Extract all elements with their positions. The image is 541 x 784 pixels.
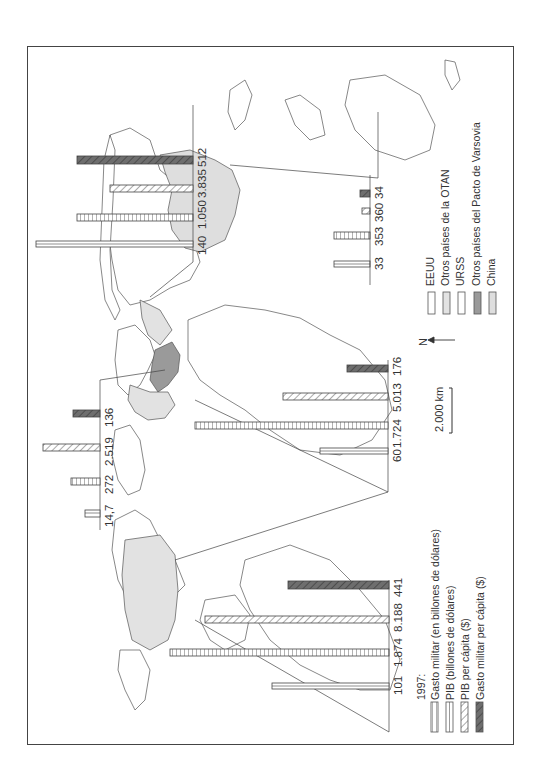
varsovia-land: [150, 342, 180, 392]
label-urss-pib-per-capita: 3.835: [197, 169, 209, 198]
africa-land: [188, 305, 392, 455]
scale-label: 2.000 km: [434, 387, 445, 432]
label-eeuu-pib: 1.874: [393, 638, 405, 667]
label-urss-pib: 1.050: [197, 200, 209, 229]
bar-china-pib-per-capita: [283, 393, 388, 400]
bar-varsovia-pib: [334, 232, 370, 239]
label-varsovia-pib: 353: [374, 227, 386, 246]
label-china-gasto-militar: 60: [392, 449, 404, 462]
bar-otan-gasto-militar: [85, 510, 100, 517]
bar-urss-gasto-per-capita: [77, 156, 193, 164]
indonesia-land: [285, 95, 325, 140]
bar-varsovia-pib-per-capita: [362, 208, 370, 214]
bar-eeuu-gasto-per-capita: [288, 581, 389, 589]
greenland-land: [112, 425, 145, 495]
label-china-pib: 1.724: [392, 419, 404, 448]
bars-varsovia: [334, 175, 370, 285]
bar-china-gasto-per-capita: [347, 365, 388, 372]
japan-land: [228, 80, 252, 130]
legend-region-varsovia: Otros países del Pacto de Varsovia: [471, 122, 482, 286]
bars-otan: [43, 410, 100, 517]
north-arrow: [428, 337, 455, 343]
label-eeuu-gasto-militar: 101: [393, 676, 405, 695]
legend-region-eeuu: EEUU: [425, 257, 436, 286]
bar-china-pib: [195, 422, 388, 429]
legend-region-china: China: [486, 259, 497, 286]
bar-otan-pib: [71, 478, 100, 485]
label-urss-gasto-per-capita: 512: [197, 148, 209, 167]
bar-urss-pib-per-capita: [110, 185, 193, 192]
legend-bar-swatches: [431, 702, 483, 732]
bar-varsovia-gasto-per-capita: [360, 190, 370, 197]
alaska-land: [118, 650, 150, 710]
bar-eeuu-pib: [170, 649, 389, 656]
legend-region-otan: Otros países de la OTAN: [440, 169, 451, 286]
legend-bar-pib: PIB (billones de dólares): [445, 586, 456, 700]
label-varsovia-gasto-militar: 33: [374, 257, 386, 270]
label-china-pib-per-capita: 5.013: [392, 383, 404, 412]
label-otan-gasto-per-capita: 136: [104, 408, 116, 427]
legend-bar-gasto-militar: Gasto militar (en billones de dólares): [430, 529, 441, 700]
scale-bar: [449, 388, 452, 433]
legend-bar-pib-per-capita: PIB per cápita ($): [460, 618, 471, 700]
legend-region-swatches: [428, 292, 496, 314]
otan-europe-land: [128, 385, 175, 420]
label-varsovia-gasto-per-capita: 34: [374, 186, 386, 199]
north-label: N: [418, 338, 429, 346]
label-china-gasto-per-capita: 176: [392, 357, 404, 376]
legend-bar-gasto-per-capita: Gasto militar per cápita ($): [475, 576, 486, 700]
label-otan-pib: 272: [104, 475, 116, 494]
label-otan-pib-per-capita: 2.519: [104, 437, 116, 466]
australia-land: [345, 75, 435, 160]
bar-otan-gasto-per-capita: [73, 410, 100, 417]
bar-eeuu-pib-per-capita: [205, 616, 389, 623]
legend-region-urss: URSS: [455, 257, 466, 286]
eeuu-land: [122, 535, 178, 650]
nz-land: [445, 60, 460, 90]
label-urss-gasto-militar: 140: [197, 236, 209, 255]
label-otan-gasto-militar: 14,7: [104, 505, 116, 527]
label-varsovia-pib-per-capita: 360: [374, 203, 386, 222]
bar-otan-pib-per-capita: [43, 444, 100, 451]
label-eeuu-gasto-per-capita: 441: [393, 578, 405, 597]
label-eeuu-pib-per-capita: 8.188: [393, 603, 405, 632]
bar-urss-pib: [77, 214, 193, 221]
legend-bar-year: 1997:: [416, 674, 427, 700]
